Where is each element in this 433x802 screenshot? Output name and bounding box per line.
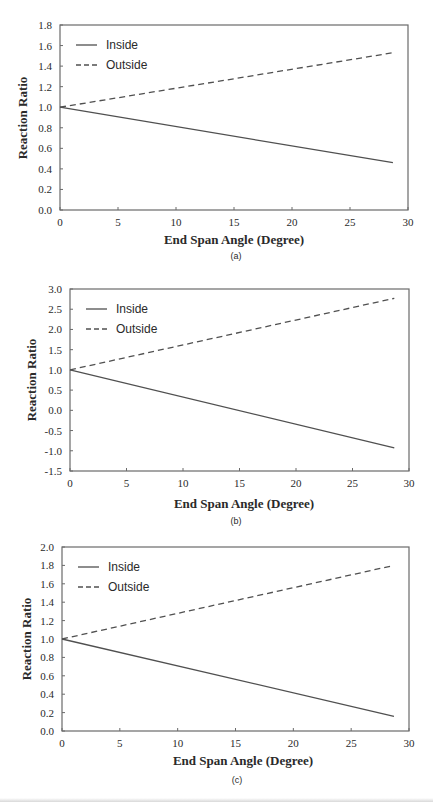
x-tick-label: 5	[124, 477, 130, 489]
legend: InsideOutside	[78, 560, 150, 594]
chart-b-svg: -1.5-1.0-0.50.00.51.01.52.02.53.00510152…	[0, 265, 433, 535]
x-tick-label: 5	[115, 216, 121, 228]
y-tick-label: 2.5	[48, 303, 62, 315]
x-tick-label: 5	[117, 737, 123, 749]
y-tick-label: 0.5	[48, 384, 62, 396]
y-tick-label: 0.0	[38, 204, 52, 216]
legend-label-outside: Outside	[116, 322, 158, 336]
y-tick-label: 0.0	[40, 725, 54, 737]
y-tick-label: 1.4	[40, 596, 54, 608]
x-axis-title: End Span Angle (Degree)	[164, 232, 304, 247]
series-line-inside	[62, 639, 394, 716]
x-tick-label: 30	[404, 477, 416, 489]
x-tick-label: 10	[171, 216, 183, 228]
y-tick-label: 0.2	[38, 183, 52, 195]
y-tick-label: 0.8	[40, 651, 54, 663]
y-tick-label: 1.4	[38, 60, 52, 72]
y-tick-label: 1.6	[40, 578, 54, 590]
plot-frame	[70, 289, 409, 471]
y-tick-label: 2.0	[40, 541, 54, 553]
x-tick-label: 20	[288, 737, 300, 749]
panel-label: (b)	[231, 516, 242, 526]
plot-frame	[62, 547, 409, 731]
x-tick-label: 25	[345, 216, 357, 228]
x-tick-label: 30	[404, 737, 416, 749]
x-tick-label: 25	[347, 477, 359, 489]
y-tick-label: 0.4	[40, 688, 54, 700]
x-axis-title: End Span Angle (Degree)	[174, 496, 314, 511]
x-tick-label: 15	[230, 737, 242, 749]
legend-label-outside: Outside	[108, 580, 150, 594]
y-tick-label: 0.0	[48, 404, 62, 416]
series-line-outside	[62, 565, 394, 639]
y-tick-label: -0.5	[45, 425, 63, 437]
x-tick-label: 25	[346, 737, 358, 749]
y-tick-label: 1.6	[38, 40, 52, 52]
y-tick-label: 1.5	[48, 344, 62, 356]
legend-label-outside: Outside	[106, 58, 148, 72]
x-tick-label: 10	[178, 477, 190, 489]
y-axis-title: Reaction Ratio	[15, 77, 30, 160]
y-tick-label: 1.8	[40, 559, 54, 571]
y-tick-label: -1.5	[45, 465, 63, 477]
y-tick-label: 1.0	[48, 364, 62, 376]
x-tick-label: 30	[403, 216, 415, 228]
legend-label-inside: Inside	[108, 560, 140, 574]
panel-label: (a)	[231, 251, 242, 261]
chart-panel-c: 0.00.20.40.60.81.01.21.41.61.82.00510152…	[0, 535, 433, 798]
y-tick-label: 1.8	[38, 19, 52, 31]
chart-a-svg: 0.00.20.40.60.81.01.21.41.61.80510152025…	[0, 0, 433, 265]
series-line-inside	[70, 370, 394, 448]
x-tick-label: 15	[229, 216, 241, 228]
y-tick-label: 0.2	[40, 707, 54, 719]
y-tick-label: 1.0	[40, 633, 54, 645]
chart-panel-b: -1.5-1.0-0.50.00.51.01.52.02.53.00510152…	[0, 265, 433, 535]
x-tick-label: 0	[57, 216, 63, 228]
legend-label-inside: Inside	[106, 38, 138, 52]
legend: InsideOutside	[76, 38, 148, 72]
y-tick-label: 2.0	[48, 323, 62, 335]
panel-label: (c)	[232, 775, 243, 785]
x-tick-label: 0	[67, 477, 73, 489]
x-tick-label: 10	[172, 737, 184, 749]
y-axis-title: Reaction Ratio	[19, 598, 34, 681]
y-tick-label: 0.4	[38, 163, 52, 175]
legend: InsideOutside	[86, 302, 158, 336]
y-axis-title: Reaction Ratio	[24, 339, 39, 422]
x-tick-label: 15	[234, 477, 246, 489]
y-tick-label: 0.8	[38, 122, 52, 134]
series-line-inside	[60, 107, 393, 163]
x-axis-title: End Span Angle (Degree)	[173, 753, 313, 768]
x-tick-label: 20	[287, 216, 299, 228]
y-tick-label: 1.0	[38, 101, 52, 113]
y-tick-label: 0.6	[38, 142, 52, 154]
cropped-caption-strip	[0, 798, 433, 802]
plot-frame	[60, 25, 408, 210]
x-tick-label: 0	[59, 737, 65, 749]
y-tick-label: 1.2	[40, 615, 54, 627]
x-tick-label: 20	[291, 477, 303, 489]
y-tick-label: -1.0	[45, 445, 63, 457]
y-tick-label: 0.6	[40, 670, 54, 682]
chart-c-svg: 0.00.20.40.60.81.01.21.41.61.82.00510152…	[0, 535, 433, 798]
y-tick-label: 1.2	[38, 81, 52, 93]
legend-label-inside: Inside	[116, 302, 148, 316]
y-tick-label: 3.0	[48, 283, 62, 295]
chart-panel-a: 0.00.20.40.60.81.01.21.41.61.80510152025…	[0, 0, 433, 265]
